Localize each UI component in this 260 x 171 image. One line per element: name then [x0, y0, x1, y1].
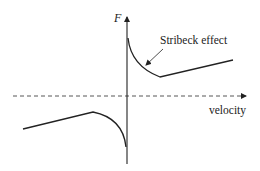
annotation-arrow [146, 49, 163, 65]
negative-friction-curve [23, 112, 126, 147]
stribeck-annotation-label: Stribeck effect [160, 34, 228, 46]
y-axis-label: F [113, 11, 122, 25]
x-axis-label: velocity [209, 104, 246, 117]
stribeck-diagram: F Stribeck effect velocity [0, 0, 260, 171]
